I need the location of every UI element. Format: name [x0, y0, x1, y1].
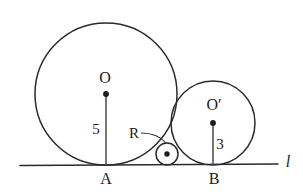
center-dot-o-prime	[210, 120, 216, 126]
label-radius-3: 3	[216, 137, 224, 152]
label-point-a: A	[100, 171, 112, 187]
center-dot-o	[103, 91, 109, 97]
center-dot-r	[164, 151, 169, 156]
label-center-o-prime: O′	[206, 97, 221, 113]
label-line-l: l	[286, 154, 290, 170]
label-center-o: O	[99, 70, 111, 86]
tangent-line-l	[20, 164, 278, 166]
label-radius-r: R	[129, 126, 139, 141]
geometry-canvas	[0, 0, 303, 192]
label-point-b: B	[209, 171, 220, 187]
label-radius-5: 5	[92, 122, 100, 137]
geometry-figure: O 5 R O′ 3 A B l	[0, 0, 303, 192]
